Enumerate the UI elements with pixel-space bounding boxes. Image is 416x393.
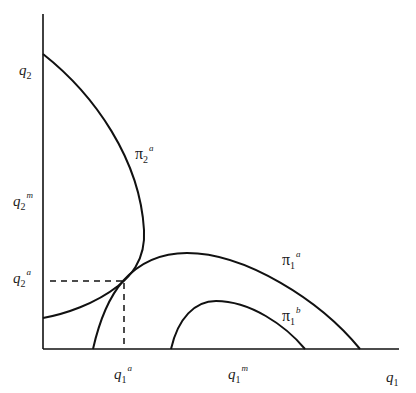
label-q2a: q2a (13, 270, 31, 286)
diagram-svg (0, 0, 416, 393)
label-pi1a: π1a (282, 252, 301, 268)
label-pi2a: π2a (135, 146, 154, 162)
label-q1a: q1a (114, 366, 132, 382)
label-q2: q2 (19, 62, 32, 78)
label-q1m: q1m (228, 366, 248, 382)
diagram-canvas: q2 q2m q2a q1a q1m q1 π2a π1a π1b (0, 0, 416, 393)
label-q1: q1 (386, 369, 399, 385)
label-q2m: q2m (13, 193, 33, 209)
label-pi1b: π1b (282, 308, 301, 324)
curve-pi2a (43, 54, 144, 318)
